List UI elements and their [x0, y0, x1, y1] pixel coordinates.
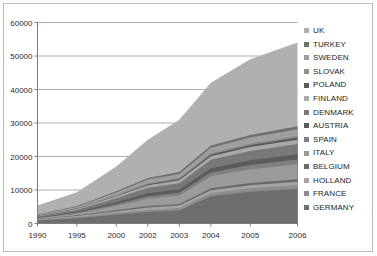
legend-item-label: FINLAND: [313, 92, 348, 106]
legend-swatch-icon: [304, 96, 309, 101]
legend-swatch-icon: [304, 69, 309, 74]
legend-item-uk[interactable]: UK: [304, 24, 376, 38]
x-tick-label: 2006: [289, 231, 307, 240]
legend-item-label: SWEDEN: [313, 51, 349, 65]
legend-swatch-icon: [304, 123, 309, 128]
legend-item-label: SPAIN: [313, 133, 337, 147]
legend-item-label: TURKEY: [313, 38, 346, 52]
legend-item-turkey[interactable]: TURKEY: [304, 38, 376, 52]
legend-swatch-icon: [304, 83, 309, 88]
legend-item-slovak[interactable]: SLOVAK: [304, 65, 376, 79]
x-tick-label: 2003: [170, 231, 188, 240]
x-tick-label: 1995: [68, 231, 86, 240]
y-tick-label: 60000: [10, 19, 33, 28]
area-series-layers: [38, 43, 298, 224]
legend-item-label: AUSTRIA: [313, 119, 348, 133]
legend-item-label: UK: [313, 24, 324, 38]
legend-item-label: ITALY: [313, 146, 335, 160]
legend-item-italy[interactable]: ITALY: [304, 146, 376, 160]
x-tick-label: 2002: [139, 231, 157, 240]
x-tick-label: 2004: [202, 231, 220, 240]
legend-item-label: GERMANY: [313, 201, 354, 215]
legend-item-sweden[interactable]: SWEDEN: [304, 51, 376, 65]
y-tick-label: 40000: [10, 86, 33, 95]
x-tick-label: 1990: [29, 231, 47, 240]
legend-item-austria[interactable]: AUSTRIA: [304, 119, 376, 133]
legend-swatch-icon: [304, 151, 309, 156]
legend-swatch-icon: [304, 205, 309, 210]
legend-item-label: POLAND: [313, 78, 347, 92]
chart-container: 0100002000030000400005000060000 19901995…: [0, 0, 377, 256]
legend-item-finland[interactable]: FINLAND: [304, 92, 376, 106]
legend-item-germany[interactable]: GERMANY: [304, 201, 376, 215]
legend-item-spain[interactable]: SPAIN: [304, 133, 376, 147]
y-tick-label: 0: [28, 220, 33, 229]
legend-swatch-icon: [304, 191, 309, 196]
x-tick-label: 2005: [241, 231, 259, 240]
x-axis-tick-labels: 19901995200020022003200420052006: [29, 231, 307, 240]
y-axis-tick-labels: 0100002000030000400005000060000: [10, 19, 33, 229]
legend-swatch-icon: [304, 164, 309, 169]
legend-item-label: SLOVAK: [313, 65, 345, 79]
legend-item-belgium[interactable]: BELGIUM: [304, 160, 376, 174]
y-tick-label: 30000: [10, 119, 33, 128]
x-tick-label: 2000: [107, 231, 125, 240]
legend-item-label: DENMARK: [313, 106, 354, 120]
legend-item-france[interactable]: FRANCE: [304, 187, 376, 201]
legend-swatch-icon: [304, 110, 309, 115]
y-tick-label: 20000: [10, 153, 33, 162]
legend-item-denmark[interactable]: DENMARK: [304, 106, 376, 120]
legend-swatch-icon: [304, 178, 309, 183]
legend-item-label: HOLLAND: [313, 174, 352, 188]
legend-swatch-icon: [304, 137, 309, 142]
legend-swatch-icon: [304, 28, 309, 33]
legend-item-poland[interactable]: POLAND: [304, 78, 376, 92]
y-tick-label: 50000: [10, 52, 33, 61]
legend-item-label: BELGIUM: [313, 160, 350, 174]
y-tick-label: 10000: [10, 186, 33, 195]
legend-item-label: FRANCE: [313, 187, 347, 201]
legend-item-holland[interactable]: HOLLAND: [304, 174, 376, 188]
legend-swatch-icon: [304, 55, 309, 60]
chart-legend: UKTURKEYSWEDENSLOVAKPOLANDFINLANDDENMARK…: [304, 24, 376, 214]
legend-swatch-icon: [304, 42, 309, 47]
